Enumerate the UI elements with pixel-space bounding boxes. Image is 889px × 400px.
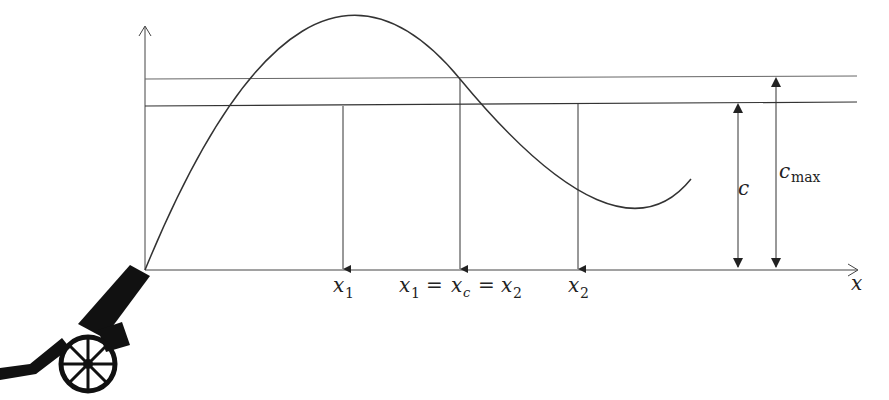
svg-text:x: x (333, 273, 344, 297)
cannon-icon (0, 265, 150, 391)
svg-text:2: 2 (513, 285, 522, 301)
svg-text:c: c (463, 285, 471, 300)
svg-text:max: max (791, 169, 821, 185)
svg-text:c: c (779, 159, 790, 183)
equality-label: x 1 = x c = x 2 (399, 273, 522, 301)
cmax-label: c max (779, 159, 821, 185)
svg-text:=: = (478, 273, 495, 297)
svg-text:x: x (451, 273, 462, 297)
x-axis-label: x (851, 271, 862, 295)
svg-text:x: x (399, 273, 410, 297)
trajectory-curve (145, 15, 691, 270)
svg-text:1: 1 (345, 285, 354, 301)
svg-text:x: x (568, 273, 579, 297)
projectile-diagram: c c max x x 1 x 1 = x c = x 2 x 2 (0, 0, 889, 400)
svg-text:=: = (426, 273, 443, 297)
svg-text:2: 2 (580, 285, 589, 301)
y-axis (139, 26, 151, 270)
svg-text:1: 1 (411, 285, 420, 301)
c-label: c (738, 176, 749, 200)
svg-text:x: x (501, 273, 512, 297)
c-level-line (145, 102, 857, 106)
x1-label: x 1 (333, 273, 354, 301)
x2-label: x 2 (568, 273, 589, 301)
